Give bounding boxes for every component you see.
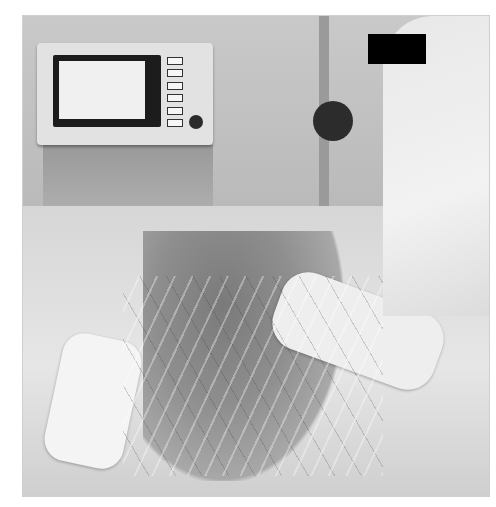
monitor-screen bbox=[53, 55, 161, 127]
monitor-knob bbox=[189, 115, 203, 129]
monitor-buttons bbox=[167, 57, 183, 127]
photo-frame: Hospital intensive care scene: medical m… bbox=[22, 15, 490, 497]
monitor-button bbox=[167, 119, 183, 127]
monitor-button bbox=[167, 57, 183, 65]
medical-cables bbox=[123, 276, 383, 476]
medical-monitor bbox=[37, 43, 213, 145]
monitor-button bbox=[167, 82, 183, 90]
monitor-button bbox=[167, 107, 183, 115]
monitor-display bbox=[59, 61, 145, 119]
monitor-button bbox=[167, 69, 183, 77]
privacy-bar bbox=[368, 34, 426, 64]
resuscitation-bag bbox=[313, 101, 353, 141]
monitor-button bbox=[167, 94, 183, 102]
